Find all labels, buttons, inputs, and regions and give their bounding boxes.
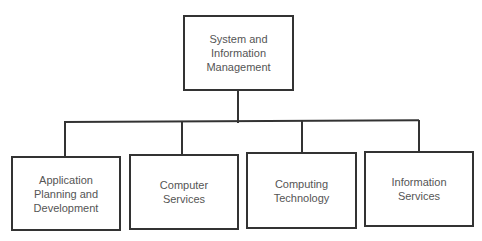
node-label: Computer Services (160, 178, 208, 206)
node-application-planning: Application Planning and Development (11, 156, 121, 231)
node-computer-services: Computer Services (129, 154, 239, 230)
connector-child-2 (181, 122, 183, 155)
node-root: System and Information Management (183, 15, 294, 91)
connector-child-4 (418, 120, 420, 152)
node-label: Information Services (391, 175, 446, 203)
node-information-services: Information Services (364, 151, 474, 227)
node-label: Application Planning and Development (34, 173, 99, 215)
connector-child-3 (301, 121, 303, 153)
connector-root-down (237, 90, 239, 123)
node-root-label: System and Information Management (206, 32, 270, 74)
node-label: Computing Technology (274, 177, 330, 205)
node-computing-technology: Computing Technology (246, 152, 357, 229)
connector-horizontal (64, 119, 419, 123)
connector-child-1 (64, 123, 66, 157)
